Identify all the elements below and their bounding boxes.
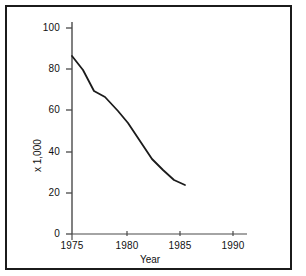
- x-axis-ticks: [72, 231, 233, 240]
- y-tick-label-100: 100: [28, 22, 60, 33]
- y-tick-label-60: 60: [28, 104, 60, 115]
- y-tick-label-20: 20: [28, 187, 60, 198]
- y-axis-title: x 1,000: [32, 139, 43, 172]
- x-tick-label-1975: 1975: [52, 240, 92, 251]
- y-tick-label-0: 0: [28, 228, 60, 239]
- x-tick-label-1990: 1990: [213, 240, 253, 251]
- x-tick-label-1985: 1985: [160, 240, 200, 251]
- y-tick-label-80: 80: [28, 63, 60, 74]
- data-series-line: [72, 56, 185, 185]
- y-axis-ticks: [66, 28, 72, 234]
- x-axis-title: Year: [120, 254, 180, 265]
- chart-figure: 100 80 60 40 20 0 1975 1980 1985 1990 Ye…: [0, 0, 306, 276]
- x-tick-label-1980: 1980: [107, 240, 147, 251]
